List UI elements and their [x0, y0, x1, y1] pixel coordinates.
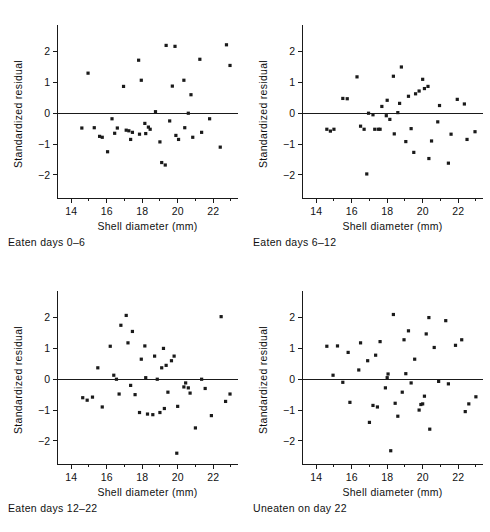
- y-tick-label: 2: [289, 45, 295, 57]
- data-point: [200, 131, 203, 134]
- x-tick-label: 20: [417, 205, 429, 217]
- data-point: [341, 97, 344, 100]
- x-tick-label: 18: [136, 471, 148, 483]
- data-point: [465, 138, 468, 141]
- y-tick-label: 2: [289, 311, 295, 323]
- data-point: [204, 387, 207, 390]
- data-point: [388, 118, 391, 121]
- plot-area-bottom-right: 210−1−21416182022Shell diameter (mm)Stan…: [245, 266, 490, 498]
- x-tick-label: 22: [207, 471, 219, 483]
- data-point: [168, 119, 171, 122]
- data-point: [454, 344, 457, 347]
- data-point: [191, 136, 194, 139]
- data-point: [398, 102, 401, 105]
- data-point: [160, 161, 163, 164]
- data-point: [410, 127, 413, 130]
- plot-area-top-left: 210−1−21416182022Shell diameter (mm)Stan…: [0, 0, 245, 232]
- data-point: [112, 374, 115, 377]
- data-point: [427, 157, 430, 160]
- data-point: [122, 85, 125, 88]
- data-point: [400, 65, 403, 68]
- y-tick-label: −2: [38, 435, 50, 447]
- data-point: [151, 413, 154, 416]
- data-point: [473, 130, 476, 133]
- data-point: [392, 75, 395, 78]
- data-point: [174, 134, 177, 137]
- panel-caption-bottom-right: Uneaten on day 22: [253, 502, 347, 514]
- data-point: [131, 131, 134, 134]
- data-point: [106, 150, 109, 153]
- data-point: [182, 79, 185, 82]
- data-point: [166, 391, 169, 394]
- data-point: [137, 59, 140, 62]
- data-point: [158, 411, 161, 414]
- data-point: [80, 126, 83, 129]
- x-tick-label: 22: [207, 205, 219, 217]
- data-point: [210, 414, 213, 417]
- data-point: [449, 133, 452, 136]
- data-point: [129, 384, 132, 387]
- data-point: [163, 407, 166, 410]
- data-point: [447, 382, 450, 385]
- data-point: [371, 113, 374, 116]
- data-point: [154, 110, 157, 113]
- data-point: [410, 381, 413, 384]
- data-point: [140, 358, 143, 361]
- data-point: [423, 87, 426, 90]
- data-point: [109, 345, 112, 348]
- data-point: [368, 421, 371, 424]
- data-point: [426, 85, 429, 88]
- y-axis-title: Standardized residual: [257, 60, 269, 168]
- x-axis-title: Shell diameter (mm): [342, 486, 442, 498]
- data-point: [173, 45, 176, 48]
- x-tick-label: 20: [172, 471, 184, 483]
- data-point: [86, 399, 89, 402]
- data-point: [325, 345, 328, 348]
- data-point: [101, 136, 104, 139]
- y-tick-label: −1: [38, 138, 50, 150]
- data-point: [414, 92, 417, 95]
- data-point: [436, 120, 439, 123]
- data-point: [138, 411, 141, 414]
- data-point: [131, 330, 134, 333]
- x-tick-label: 14: [310, 471, 322, 483]
- data-point: [144, 376, 147, 379]
- plot-area-bottom-left: 210−1−21416182022Shell diameter (mm)Stan…: [0, 266, 245, 498]
- data-point: [96, 366, 99, 369]
- data-point: [224, 400, 227, 403]
- data-point: [188, 392, 191, 395]
- data-point: [421, 78, 424, 81]
- data-point: [189, 93, 192, 96]
- x-axis-title: Shell diameter (mm): [97, 486, 197, 498]
- data-point: [144, 132, 147, 135]
- data-point: [119, 324, 122, 327]
- data-point: [396, 111, 399, 114]
- data-point: [401, 391, 404, 394]
- data-point: [170, 359, 173, 362]
- data-point: [404, 372, 407, 375]
- data-point: [384, 386, 387, 389]
- data-point: [438, 104, 441, 107]
- scatter-panel-top-right: 210−1−21416182022Shell diameter (mm)Stan…: [245, 0, 490, 266]
- y-tick-label: 1: [44, 76, 50, 88]
- data-point: [357, 368, 360, 371]
- x-tick-label: 16: [101, 471, 113, 483]
- data-point: [149, 128, 152, 131]
- x-tick-label: 18: [136, 205, 148, 217]
- data-point: [129, 138, 132, 141]
- y-tick-label: 1: [44, 342, 50, 354]
- data-point: [407, 329, 410, 332]
- data-point-group: [80, 43, 231, 166]
- data-point: [93, 126, 96, 129]
- data-point: [208, 117, 211, 120]
- data-point: [101, 405, 104, 408]
- data-point: [433, 346, 436, 349]
- data-point: [126, 341, 129, 344]
- data-point: [113, 132, 116, 135]
- data-point: [143, 122, 146, 125]
- data-point: [427, 316, 430, 319]
- data-point-group: [325, 65, 476, 175]
- panel-caption-bottom-left: Eaten days 12–22: [8, 502, 97, 514]
- x-tick-label: 14: [65, 205, 77, 217]
- y-tick-label: −1: [283, 138, 295, 150]
